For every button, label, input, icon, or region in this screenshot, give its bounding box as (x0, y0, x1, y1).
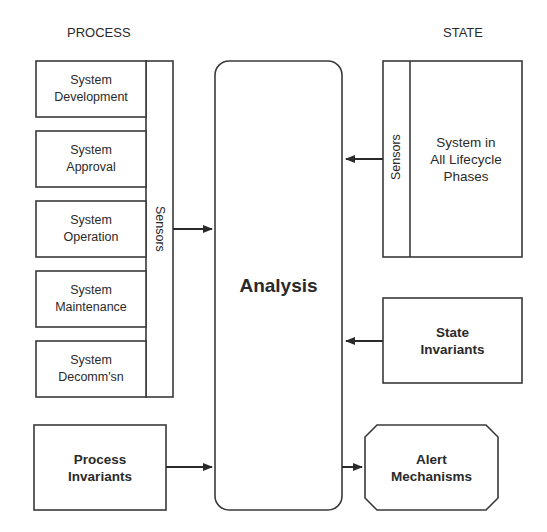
process-label-decommission: System Decomm'sn (36, 341, 146, 397)
state-invariants-label: State Invariants (383, 298, 522, 383)
alert-mechanisms-label: Alert Mechanisms (365, 425, 498, 510)
state-header: STATE (443, 25, 483, 40)
analysis-label: Analysis (215, 270, 342, 300)
process-sensors-label: Sensors (153, 206, 167, 250)
process-label-operation: System Operation (36, 201, 146, 257)
process-label-maintenance: System Maintenance (36, 271, 146, 327)
state-sensors-label: Sensors (389, 136, 403, 180)
process-label-approval: System Approval (36, 131, 146, 187)
process-header: PROCESS (67, 25, 131, 40)
process-invariants-label: Process Invariants (34, 425, 166, 510)
state-system-label: System in All Lifecycle Phases (410, 61, 522, 257)
process-label-development: System Development (36, 61, 146, 117)
